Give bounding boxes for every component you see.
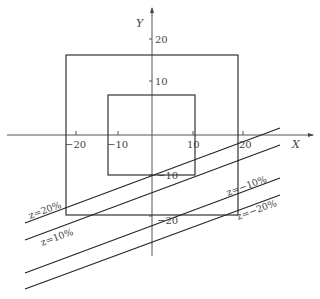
x-tick-label: −10 — [107, 139, 128, 150]
x-tick-label: −20 — [65, 139, 86, 150]
line-label: z=−20% — [235, 197, 278, 222]
diagram-canvas: X Y −20 −10 10 20 20 10 −10 −20 z=20% z=… — [0, 0, 320, 299]
line-label: z=−10% — [225, 173, 268, 198]
y-tick-label: 20 — [155, 34, 168, 45]
y-ticks: 20 10 −10 −20 — [149, 34, 178, 226]
x-axis-label: X — [291, 138, 301, 151]
x-tick-label: 10 — [187, 139, 200, 150]
line-label: z=20% — [27, 199, 63, 221]
y-axis-label: Y — [136, 17, 145, 30]
x-ticks: −20 −10 10 20 — [65, 131, 252, 150]
line-label: z=10% — [39, 226, 75, 248]
y-tick-label: 10 — [155, 76, 168, 87]
